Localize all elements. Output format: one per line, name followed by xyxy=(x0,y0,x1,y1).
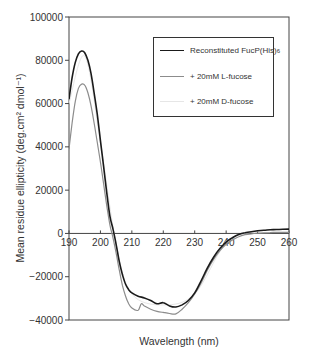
legend: Reconstituted FucP(His)6 + 20mM L-fucose… xyxy=(153,37,274,117)
x-tick-label: 200 xyxy=(92,237,109,248)
series-line xyxy=(69,84,289,314)
x-axis-title: Wavelength (nm) xyxy=(139,335,219,347)
legend-swatch-light xyxy=(160,101,184,102)
y-tick-label: 100000 xyxy=(30,12,64,23)
x-tick-label: 210 xyxy=(124,237,141,248)
legend-swatch-gray xyxy=(160,76,184,77)
y-tick-label: −40000 xyxy=(29,315,63,326)
y-tick-label: −20000 xyxy=(29,271,63,282)
y-tick-label: 40000 xyxy=(35,141,63,152)
legend-item-d-fucose: + 20mM D-fucose xyxy=(160,97,253,106)
legend-item-reconstituted: Reconstituted FucP(His)6 xyxy=(160,46,280,55)
legend-label-subscript: 6 xyxy=(277,48,280,54)
y-tick-label: 60000 xyxy=(35,98,63,109)
x-tick-label: 250 xyxy=(249,237,266,248)
x-tick-label: 230 xyxy=(186,237,203,248)
legend-label: + 20mM L-fucose xyxy=(190,72,252,81)
legend-swatch-black xyxy=(160,50,184,51)
x-tick-label: 260 xyxy=(281,237,298,248)
x-tick-label: 190 xyxy=(61,237,78,248)
y-tick-label: 80000 xyxy=(35,55,63,66)
legend-item-l-fucose: + 20mM L-fucose xyxy=(160,72,252,81)
legend-label: Reconstituted FucP(His) xyxy=(190,46,277,55)
y-tick-label: 20000 xyxy=(35,185,63,196)
legend-label: + 20mM D-fucose xyxy=(190,97,253,106)
y-axis-title: Mean residue ellipticity (deg.cm² dmol⁻¹… xyxy=(14,73,26,262)
x-tick-label: 220 xyxy=(155,237,172,248)
